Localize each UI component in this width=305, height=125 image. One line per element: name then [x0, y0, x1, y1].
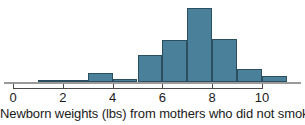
x-axis-tick-label: 6 — [150, 90, 174, 105]
x-axis-tick-label: 8 — [200, 90, 224, 105]
x-axis-tick — [63, 84, 64, 89]
histogram-bar — [88, 73, 113, 82]
histogram-bar — [237, 69, 262, 82]
histogram-bar — [187, 8, 212, 82]
x-axis-tick — [113, 84, 114, 89]
histogram-bar — [162, 40, 187, 82]
x-axis-line — [13, 88, 262, 89]
baseline-rule — [4, 82, 301, 84]
figure-caption: Newborn weights (lbs) from mothers who d… — [0, 106, 305, 121]
x-axis-tick-label: 0 — [1, 90, 25, 105]
x-axis-tick-label: 10 — [250, 90, 274, 105]
x-axis-tick — [212, 84, 213, 89]
histogram-figure: 0 2 4 6 8 10 Newborn weights (lbs) from … — [0, 0, 305, 125]
x-axis-tick — [262, 84, 263, 89]
x-axis-tick — [13, 84, 14, 89]
x-axis-tick-label: 4 — [101, 90, 125, 105]
plot-area — [0, 0, 305, 86]
histogram-bar — [212, 39, 237, 82]
x-axis-tick — [162, 84, 163, 89]
x-axis-tick-label: 2 — [51, 90, 75, 105]
histogram-bar — [138, 55, 163, 82]
